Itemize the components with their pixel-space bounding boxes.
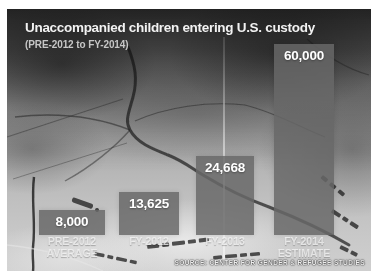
category-label-pre-2012-average: PRE-2012AVERAGE bbox=[46, 236, 97, 259]
infographic: 8,000PRE-2012AVERAGE13,625FY-201224,668F… bbox=[0, 0, 377, 277]
bar-fy-2014-estimate: 60,000 bbox=[274, 44, 334, 235]
chart-header: Unaccompanied children entering U.S. cus… bbox=[25, 20, 315, 50]
bar-value-label: 8,000 bbox=[39, 214, 105, 229]
chart-title: Unaccompanied children entering U.S. cus… bbox=[25, 20, 315, 35]
bar-value-label: 60,000 bbox=[274, 48, 334, 63]
category-label-fy-2013: FY-2013 bbox=[205, 236, 245, 248]
category-label-fy-2014-estimate: FY-2014ESTIMATE bbox=[278, 236, 330, 259]
bar-value-label: 24,668 bbox=[196, 160, 254, 175]
bar-fy-2012: 13,625 bbox=[119, 192, 179, 235]
bar-fy-2013: 24,668 bbox=[196, 156, 254, 235]
bar-value-label: 13,625 bbox=[119, 196, 179, 211]
bar-pre-2012-average: 8,000 bbox=[39, 210, 105, 235]
map-background: 8,000PRE-2012AVERAGE13,625FY-201224,668F… bbox=[7, 9, 371, 271]
chart-subtitle: (PRE-2012 to FY-2014) bbox=[25, 39, 315, 50]
category-label-fy-2012: FY-2012 bbox=[129, 236, 169, 248]
source-attribution: SOURCE: CENTER FOR GENDER & REFUGEE STUD… bbox=[174, 259, 365, 266]
